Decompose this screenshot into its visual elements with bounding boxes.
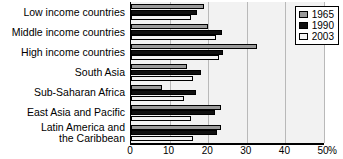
chart-legend: 1965 1990 2003 [295,6,339,45]
bar [131,15,191,20]
category-label: Middle income countries [12,27,125,38]
x-tick-label-20: 20 [202,145,213,156]
gridline-30 [247,2,248,143]
bar [131,44,257,49]
bar [131,85,162,90]
bar [131,50,223,55]
bar [131,35,216,40]
x-tick-label-30: 30 [240,145,251,156]
bar [131,110,215,115]
category-label: High income countries [21,47,125,58]
bar [131,4,204,9]
bar [131,105,221,110]
x-axis-unit: % [328,145,337,156]
category-label: Low income countries [23,7,125,18]
x-axis-line [130,143,324,145]
legend-item-1990: 1990 [299,20,334,31]
bar [131,136,193,141]
bar [131,10,197,15]
legend-label-1990: 1990 [312,21,334,31]
category-label: Latin America andthe Caribbean [1,122,125,144]
legend-swatch-2003 [299,33,308,40]
legend-label-1965: 1965 [312,10,334,20]
x-tick-label-40: 40 [279,145,290,156]
legend-swatch-1965 [299,11,308,18]
category-label: East Asia and Pacific [27,107,125,118]
bar [131,76,193,81]
category-labels: Low income countriesMiddle income countr… [0,0,128,143]
legend-item-1965: 1965 [299,9,334,20]
gridline-40 [285,2,286,143]
bar [131,24,208,29]
legend-label-2003: 2003 [312,32,334,42]
bar [131,55,219,60]
bar-chart: Low income countriesMiddle income countr… [0,0,343,159]
bar [131,116,191,121]
bar [131,70,201,75]
bar [131,90,196,95]
legend-swatch-1990 [299,22,308,29]
legend-item-2003: 2003 [299,31,334,42]
category-label: Sub-Saharan Africa [34,87,125,98]
x-tick-label-10: 10 [163,145,174,156]
category-label: South Asia [75,67,125,78]
x-tick-label-0: 0 [127,145,133,156]
bar [131,130,217,135]
gridline-20 [208,2,209,143]
bar [131,96,184,101]
x-tick-label-50: 50 [317,145,328,156]
bar [131,64,187,69]
bar [131,125,221,130]
bar [131,30,222,35]
